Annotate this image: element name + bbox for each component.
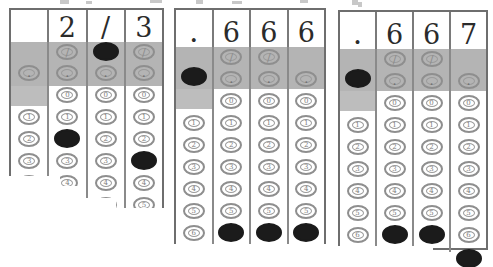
bubble-slash[interactable]: / [56,44,78,60]
bubble-4[interactable]: 4 [384,183,406,199]
bubble-decimal[interactable]: . [18,65,40,81]
written-cell-2[interactable]: 6 [377,12,414,49]
bubble-column-4[interactable]: / . 0 1 2 3 4 5 [126,42,162,215]
bubble-column-2[interactable]: / . 0 1 2 3 4 5 6 [377,49,414,252]
bubble-3[interactable]: 3 [458,161,480,177]
bubble-3[interactable]: 3 [220,159,242,175]
bubble-0[interactable]: 0 [133,87,155,103]
bubble-2[interactable]: 2 [295,137,317,153]
bubble-0[interactable]: 0 [258,93,280,109]
bubble-decimal[interactable]: . [220,71,242,87]
bubble-slash[interactable]: / [220,49,242,65]
bubble-2[interactable]: 2 [18,131,40,147]
written-cell-3[interactable]: 6 [251,10,289,47]
bubble-1[interactable]: 1 [56,109,78,125]
answer-grid-3[interactable]: . 6 6 7 . 1 2 3 4 5 6 / . [338,10,488,250]
bubble-4[interactable]: 4 [133,175,155,191]
bubble-5[interactable]: 5 [295,203,317,219]
bubble-0[interactable]: 0 [56,87,78,103]
bubble-6[interactable]: 6 [347,227,369,243]
bubble-3[interactable]: 3 [295,159,317,175]
bubble-3-filled[interactable]: 3 [131,151,157,170]
written-cell-2[interactable]: 6 [214,10,252,47]
bubble-4[interactable]: 4 [295,181,317,197]
bubble-4[interactable]: 4 [458,183,480,199]
bubble-column-1[interactable]: . 1 2 3 4 5 6 [176,47,214,250]
bubble-2[interactable]: 2 [183,137,205,153]
bubble-0[interactable]: 0 [384,95,406,111]
bubble-decimal[interactable]: . [95,65,117,81]
bubble-3[interactable]: 3 [384,161,406,177]
bubble-column-2[interactable]: / . 0 1 2 3 4 5 6 [214,47,252,250]
bubble-slash[interactable]: / [384,51,406,67]
bubble-6-filled[interactable]: 6 [293,223,319,242]
bubble-decimal[interactable]: . [458,73,480,89]
bubble-1[interactable]: 1 [258,115,280,131]
written-cell-4[interactable]: 3 [126,10,162,42]
bubble-2[interactable]: 2 [133,131,155,147]
bubble-6-filled[interactable]: 6 [382,225,408,244]
bubble-6-filled[interactable]: 6 [256,223,282,242]
written-cell-3[interactable]: 6 [414,12,451,49]
bubble-decimal[interactable]: . [384,73,406,89]
bubble-1[interactable]: 1 [183,115,205,131]
bubble-5[interactable]: 5 [458,205,480,221]
bubble-slash[interactable]: / [258,49,280,65]
bubble-slash[interactable]: / [133,44,155,60]
bubble-columns[interactable]: . 1 2 3 4 5 6 / . 0 1 2 3 4 5 6 [176,47,324,250]
bubble-column-4[interactable]: . 0 1 2 3 4 5 6 [289,47,325,250]
bubble-2[interactable]: 2 [421,139,443,155]
bubble-6-filled[interactable]: 6 [419,225,445,244]
bubble-2[interactable]: 2 [258,137,280,153]
written-cell-1[interactable] [11,10,49,42]
bubble-0[interactable]: 0 [458,95,480,111]
bubble-7-filled[interactable]: 7 [456,249,482,267]
written-cell-2[interactable]: 2 [49,10,87,42]
bubble-5[interactable]: 5 [384,205,406,221]
bubble-4[interactable]: 4 [183,181,205,197]
bubble-decimal[interactable]: . [421,73,443,89]
written-cell-1[interactable]: . [340,12,377,49]
bubble-column-3[interactable]: / . 0 1 2 3 4 5 [88,42,126,215]
bubble-2[interactable]: 2 [384,139,406,155]
bubble-1[interactable]: 1 [18,109,40,125]
bubble-0[interactable]: 0 [295,93,317,109]
bubble-5[interactable]: 5 [220,203,242,219]
bubble-1[interactable]: 1 [421,117,443,133]
bubble-1[interactable]: 1 [95,109,117,125]
written-answer-row[interactable]: . 6 6 7 [340,12,486,49]
bubble-6-filled[interactable]: 6 [218,223,244,242]
bubble-4[interactable]: 4 [95,175,117,191]
bubble-3[interactable]: 3 [347,161,369,177]
bubble-column-4[interactable]: . 0 1 2 3 4 5 6 7 [451,49,486,252]
bubble-decimal-filled[interactable]: . [181,67,207,86]
bubble-decimal[interactable]: . [133,65,155,81]
written-cell-3[interactable]: / [88,10,126,42]
written-answer-row[interactable]: . 6 6 6 [176,10,324,47]
bubble-2[interactable]: 2 [220,137,242,153]
bubble-3[interactable]: 3 [421,161,443,177]
bubble-4[interactable]: 4 [220,181,242,197]
bubble-4[interactable]: 4 [347,183,369,199]
bubble-column-3[interactable]: / . 0 1 2 3 4 5 6 [414,49,451,252]
bubble-column-3[interactable]: / . 0 1 2 3 4 5 6 [251,47,289,250]
bubble-1[interactable]: 1 [458,117,480,133]
bubble-5[interactable]: 5 [347,205,369,221]
written-cell-4[interactable]: 6 [289,10,325,47]
bubble-decimal[interactable]: . [295,71,317,87]
bubble-6[interactable]: 6 [458,227,480,243]
bubble-5[interactable]: 5 [421,205,443,221]
bubble-5[interactable]: 5 [258,203,280,219]
bubble-0[interactable]: 0 [220,93,242,109]
bubble-decimal[interactable]: . [258,71,280,87]
written-answer-row[interactable]: 2 / 3 [11,10,162,42]
bubble-slash[interactable]: / [421,51,443,67]
bubble-3[interactable]: 3 [258,159,280,175]
bubble-2-filled[interactable]: 2 [54,129,80,148]
bubble-0[interactable]: 0 [95,87,117,103]
bubble-slash-filled[interactable]: / [93,42,119,61]
bubble-4[interactable]: 4 [258,181,280,197]
bubble-3[interactable]: 3 [56,153,78,169]
bubble-0[interactable]: 0 [421,95,443,111]
bubble-2[interactable]: 2 [458,139,480,155]
